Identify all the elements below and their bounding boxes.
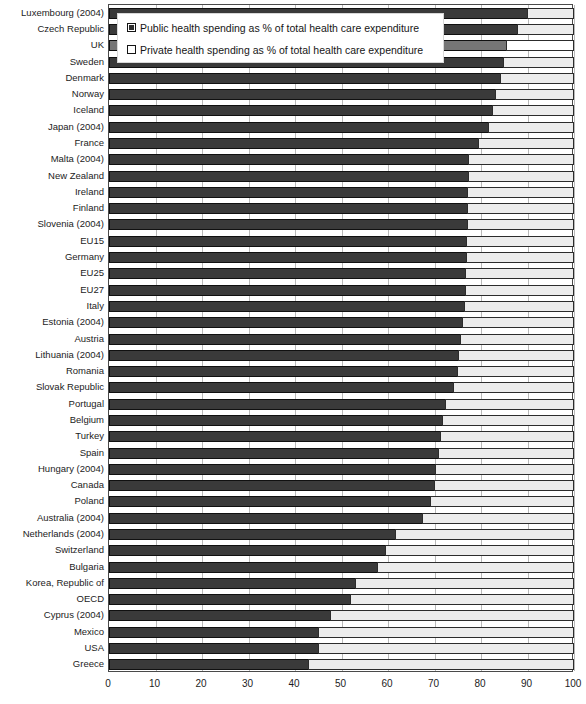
bar-segment-private	[395, 529, 574, 540]
bar-segment-public	[109, 659, 309, 670]
bar-segment-public	[109, 399, 446, 410]
category-label: New Zealand	[0, 170, 104, 181]
bar-segment-public	[109, 268, 466, 279]
bar-segment-private	[478, 138, 574, 149]
bar-segment-private	[462, 317, 574, 328]
category-label: EU15	[0, 235, 104, 246]
bar-segment-private	[377, 562, 574, 573]
category-label: Japan (2004)	[0, 121, 104, 132]
bar-row	[109, 545, 572, 556]
category-label: OECD	[0, 593, 104, 604]
category-label: Lithuania (2004)	[0, 349, 104, 360]
x-axis-labels: 0102030405060708090100	[108, 674, 573, 698]
bar-row	[109, 236, 572, 247]
bar-segment-private	[468, 171, 574, 182]
category-label: Slovak Republic	[0, 381, 104, 392]
category-label: Switzerland	[0, 544, 104, 555]
bar-segment-public	[109, 415, 443, 426]
bar-row	[109, 399, 572, 410]
category-label: Bulgaria	[0, 561, 104, 572]
bar-segment-public	[109, 252, 467, 263]
category-label: France	[0, 137, 104, 148]
bar-row	[109, 578, 572, 589]
bar-segment-public	[109, 89, 496, 100]
bar-segment-private	[430, 496, 574, 507]
bar-segment-public	[109, 219, 468, 230]
bar-row	[109, 415, 572, 426]
bar-segment-public	[109, 301, 465, 312]
legend-label-public: Public health spending as % of total hea…	[140, 22, 419, 34]
category-label: Finland	[0, 202, 104, 213]
bar-segment-public	[109, 366, 458, 377]
bar-segment-private	[465, 285, 574, 296]
bar-segment-private	[466, 252, 574, 263]
x-tick-label: 80	[474, 678, 485, 690]
bar-segment-public	[109, 154, 469, 165]
bar-segment-public	[109, 610, 331, 621]
category-label: Czech Republic	[0, 23, 104, 34]
bar-row	[109, 187, 572, 198]
bar-segment-public	[109, 203, 468, 214]
bar-row	[109, 643, 572, 654]
bar-row	[109, 122, 572, 133]
bar-row	[109, 562, 572, 573]
bar-segment-private	[500, 73, 574, 84]
category-label: USA	[0, 642, 104, 653]
bar-row	[109, 268, 572, 279]
category-label: Germany	[0, 251, 104, 262]
bar-row	[109, 105, 572, 116]
category-label: Slovenia (2004)	[0, 218, 104, 229]
bar-row	[109, 350, 572, 361]
bar-segment-public	[109, 464, 436, 475]
bar-row	[109, 513, 572, 524]
bar-segment-private	[440, 431, 574, 442]
bar-row	[109, 496, 572, 507]
bar-segment-private	[445, 399, 574, 410]
category-label: Turkey	[0, 430, 104, 441]
category-label: Australia (2004)	[0, 512, 104, 523]
x-tick-label: 100	[565, 678, 582, 690]
bar-rows	[109, 5, 572, 671]
category-label: Sweden	[0, 56, 104, 67]
bar-segment-private	[355, 578, 574, 589]
bar-segment-private	[517, 24, 574, 35]
legend-swatch-private-icon	[127, 45, 136, 54]
legend-item-private: Private health spending as % of total he…	[127, 43, 423, 56]
bar-segment-private	[495, 89, 574, 100]
bar-segment-private	[385, 545, 574, 556]
bar-row	[109, 301, 572, 312]
category-label: Austria	[0, 333, 104, 344]
bar-segment-private	[435, 464, 574, 475]
bar-segment-public	[109, 350, 459, 361]
bar-segment-private	[488, 122, 574, 133]
category-label: Korea, Republic of	[0, 577, 104, 588]
bar-segment-public	[109, 187, 468, 198]
bar-segment-private	[492, 105, 574, 116]
bar-segment-public	[109, 105, 493, 116]
bar-segment-private	[453, 382, 574, 393]
bar-segment-private	[466, 236, 574, 247]
category-label: Spain	[0, 447, 104, 458]
bar-row	[109, 89, 572, 100]
bar-segment-private	[464, 301, 574, 312]
bar-row	[109, 73, 572, 84]
bar-row	[109, 366, 572, 377]
bar-segment-private	[330, 610, 574, 621]
bar-segment-private	[434, 480, 574, 491]
category-label: Romania	[0, 365, 104, 376]
category-label: Portugal	[0, 398, 104, 409]
bar-segment-public	[109, 382, 454, 393]
bar-segment-private	[350, 594, 574, 605]
bar-row	[109, 252, 572, 263]
bar-segment-public	[109, 480, 435, 491]
bar-row	[109, 464, 572, 475]
bar-segment-private	[308, 659, 574, 670]
stacked-bar-chart: Luxembourg (2004)Czech RepublicUKSwedenD…	[0, 0, 586, 704]
bar-row	[109, 529, 572, 540]
bar-row	[109, 480, 572, 491]
bar-segment-public	[109, 578, 356, 589]
gridline	[574, 5, 575, 671]
legend-swatch-public-icon	[127, 23, 136, 32]
bar-segment-public	[109, 643, 319, 654]
category-label: Hungary (2004)	[0, 463, 104, 474]
